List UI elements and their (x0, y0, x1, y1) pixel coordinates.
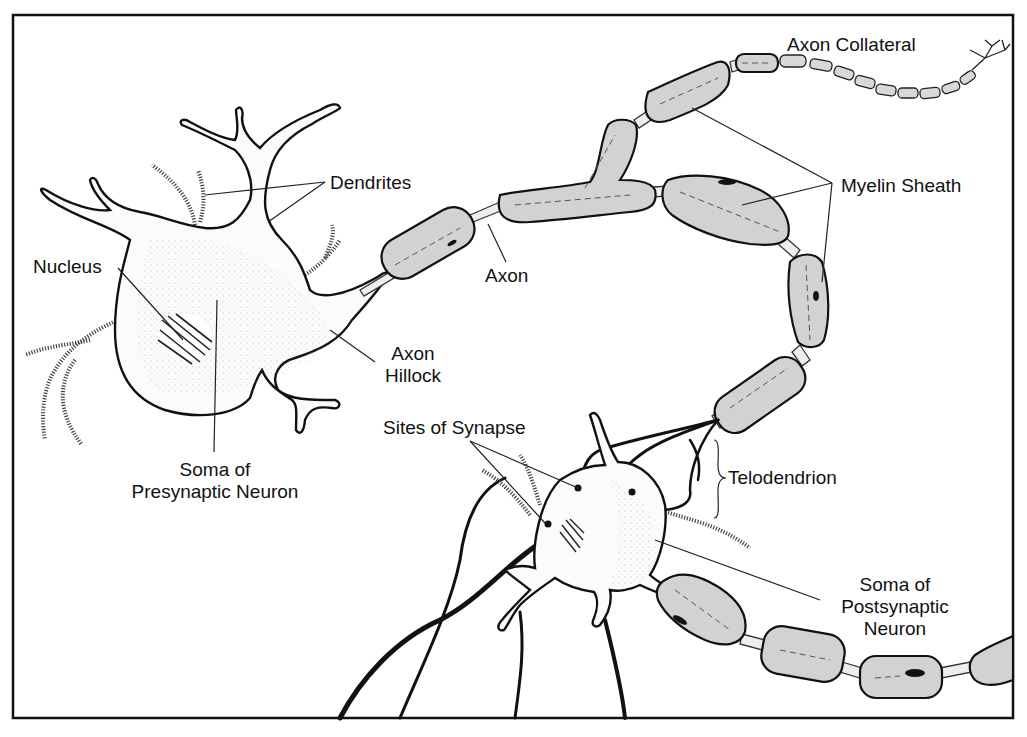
label-soma-presynaptic-line1: Soma of (100, 459, 330, 481)
label-axon-hillock-line2: Hillock (378, 365, 448, 387)
label-axon-hillock-line1: Axon (378, 343, 448, 365)
synapse-site (545, 521, 552, 528)
dendrite-hatched-left (43, 320, 118, 440)
synapse-site (629, 489, 636, 496)
label-sites-of-synapse: Sites of Synapse (383, 417, 526, 439)
label-nucleus: Nucleus (33, 256, 102, 278)
myelin-segment (970, 636, 1013, 685)
label-soma-postsynaptic-line3: Neuron (830, 618, 960, 640)
myelin-segment (708, 350, 813, 440)
myelin-segment (860, 656, 942, 698)
label-telodendrion: Telodendrion (728, 467, 837, 489)
myelin-segment (374, 200, 482, 286)
label-soma-postsynaptic: Soma of Postsynaptic Neuron (830, 574, 960, 640)
label-dendrites: Dendrites (330, 172, 411, 194)
dendrite-hatched-right (305, 240, 340, 275)
label-axon-hillock: Axon Hillock (378, 343, 448, 387)
label-axon: Axon (485, 265, 528, 287)
axon-collateral-terminal (970, 40, 1010, 70)
label-soma-postsynaptic-line1: Soma of (830, 574, 960, 596)
label-soma-postsynaptic-line2: Postsynaptic (830, 596, 960, 618)
myelin-segment (662, 176, 788, 245)
label-soma-presynaptic: Soma of Presynaptic Neuron (100, 459, 330, 503)
postsynaptic-neuron (340, 413, 750, 718)
label-myelin-sheath: Myelin Sheath (841, 175, 961, 197)
myelin-segment-branched (499, 120, 656, 223)
label-axon-collateral: Axon Collateral (787, 34, 916, 56)
label-soma-presynaptic-line2: Presynaptic Neuron (100, 481, 330, 503)
